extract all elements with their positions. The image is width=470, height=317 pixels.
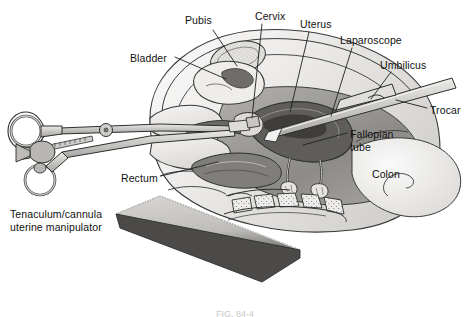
medical-illustration-figure: Pubis Cervix Uterus Laparoscope Umbilicu… — [0, 0, 470, 317]
label-pubis: Pubis — [185, 14, 212, 26]
label-fallopian-line-2: tube — [350, 141, 371, 153]
label-uterine-manipulator: Tenaculum/cannulauterine manipulator — [10, 208, 102, 233]
label-trocar: Trocar — [430, 104, 461, 116]
illustration-canvas — [0, 0, 470, 317]
label-uterus: Uterus — [300, 18, 332, 30]
label-manipulator-line-1: Tenaculum/cannula — [10, 208, 102, 220]
label-laparoscope: Laparoscope — [340, 34, 402, 46]
label-fallopian-tube: Fallopiantube — [350, 128, 394, 153]
label-rectum: Rectum — [121, 172, 158, 184]
label-colon: Colon — [372, 168, 400, 180]
label-manipulator-line-2: uterine manipulator — [10, 221, 102, 233]
label-bladder: Bladder — [130, 52, 167, 64]
label-umbilicus: Umbilicus — [380, 59, 426, 71]
label-cervix: Cervix — [255, 10, 285, 22]
figure-caption: FIG. 84-4 — [0, 309, 470, 317]
label-fallopian-line-1: Fallopian — [350, 128, 394, 140]
bladder-organ — [194, 61, 265, 104]
